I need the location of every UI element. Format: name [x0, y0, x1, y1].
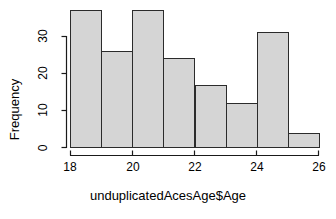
x-tick-label: 24	[250, 160, 263, 174]
y-tick-label: 0	[36, 145, 50, 152]
histogram-bar	[288, 133, 320, 148]
y-tick-label: 10	[36, 103, 50, 116]
x-tick-label: 18	[63, 160, 76, 174]
histogram-bar	[132, 10, 164, 148]
x-tick-label: 20	[126, 160, 139, 174]
y-tick-label: 20	[36, 66, 50, 79]
histogram-bar	[70, 10, 102, 148]
histogram-bar	[195, 85, 227, 148]
plot-area	[70, 6, 319, 148]
histogram-bar	[163, 58, 195, 148]
x-tick-label: 26	[312, 160, 325, 174]
x-axis-title: unduplicatedAcesAge$Age	[0, 188, 336, 203]
y-axis-tick-labels: 30 20 10 0	[26, 0, 60, 219]
histogram-bar	[257, 32, 289, 148]
histogram-bar	[226, 103, 258, 148]
histogram-plot: Frequency 30 20 10 0	[0, 0, 336, 219]
y-axis-title: Frequency	[0, 0, 28, 219]
x-tick-label: 22	[188, 160, 201, 174]
y-tick-label: 30	[36, 29, 50, 42]
histogram-bar	[101, 51, 133, 148]
